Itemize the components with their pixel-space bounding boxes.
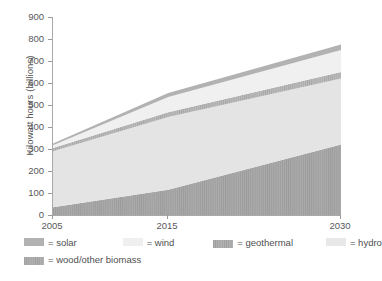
x-tick-2015: 2015 bbox=[147, 220, 187, 231]
legend-label-hydro: = hydro bbox=[350, 236, 382, 250]
plot-area bbox=[52, 17, 341, 216]
x-tick-2005: 2005 bbox=[32, 220, 72, 231]
y-tick-600: 600 bbox=[14, 78, 44, 88]
y-tick-300: 300 bbox=[14, 144, 44, 154]
x-tick-2030: 2030 bbox=[320, 220, 360, 231]
stacked-area-plot bbox=[53, 17, 341, 215]
chart-legend: = solar = wind = geothermal = hydro = wo… bbox=[24, 236, 370, 270]
legend-row-1: = solar = wind = geothermal = hydro bbox=[24, 236, 370, 253]
legend-swatch-wood-other-biomass bbox=[24, 255, 44, 263]
legend-swatch-hydro bbox=[326, 238, 346, 246]
y-tick-700: 700 bbox=[14, 56, 44, 66]
y-tick-200: 200 bbox=[14, 166, 44, 176]
y-tick-500: 500 bbox=[14, 100, 44, 110]
legend-swatch-solar bbox=[24, 238, 44, 246]
x-tickmark-2030 bbox=[340, 215, 341, 219]
legend-swatch-geothermal-pattern bbox=[213, 240, 233, 248]
legend-swatch-biomass-pattern bbox=[24, 257, 44, 265]
legend-item-wind[interactable]: = wind bbox=[123, 236, 211, 250]
legend-item-hydro[interactable]: = hydro bbox=[326, 236, 382, 250]
legend-label-geothermal: = geothermal bbox=[237, 236, 293, 250]
y-tick-400: 400 bbox=[14, 122, 44, 132]
legend-item-geothermal[interactable]: = geothermal bbox=[213, 236, 323, 250]
y-tick-0: 0 bbox=[14, 210, 44, 220]
legend-label-wind: = wind bbox=[147, 236, 175, 250]
legend-row-2: = wood/other biomass bbox=[24, 253, 370, 270]
y-tick-100: 100 bbox=[14, 188, 44, 198]
legend-label-wood-other-biomass: = wood/other biomass bbox=[48, 253, 141, 267]
y-tick-900: 900 bbox=[14, 12, 44, 22]
legend-swatch-geothermal bbox=[213, 238, 233, 246]
legend-label-solar: = solar bbox=[48, 236, 77, 250]
y-tick-800: 800 bbox=[14, 34, 44, 44]
legend-item-wood-other-biomass[interactable]: = wood/other biomass bbox=[24, 253, 141, 267]
legend-item-solar[interactable]: = solar bbox=[24, 236, 120, 250]
x-tickmark-2005 bbox=[52, 215, 53, 219]
x-tickmark-2015 bbox=[167, 215, 168, 219]
legend-swatch-wind bbox=[123, 238, 143, 246]
